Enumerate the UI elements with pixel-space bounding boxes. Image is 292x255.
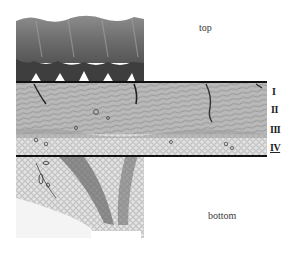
horizontal-layer-band [16,82,267,156]
band-bottom-line [16,155,267,157]
layer-label-2: II [271,104,278,115]
band-top-line [16,81,267,83]
layer-label-3: III [270,124,280,135]
layer-label-1: I [272,86,275,97]
bottom-label: bottom [208,210,236,221]
top-label: top [199,22,212,33]
layer-label-4: IV [270,142,280,153]
